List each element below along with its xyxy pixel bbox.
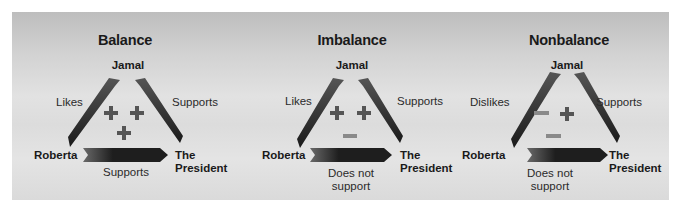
node-roberta: Roberta [34, 149, 77, 161]
node-president-line1: The [175, 149, 195, 161]
node-jamal: Jamal [551, 59, 584, 71]
plus-icon [117, 126, 131, 140]
bottom-arrow-icon [310, 148, 392, 162]
relation-bottom: Does not support [527, 167, 573, 193]
relation-left: Dislikes [470, 96, 510, 108]
nonbalance-diagram: Nonbalance Jamal Roberta The President D… [440, 12, 668, 200]
relation-bottom-line1: Supports [103, 166, 149, 179]
relation-bottom-line2: support [328, 180, 374, 193]
node-roberta: Roberta [462, 149, 505, 161]
relation-bottom: Supports [103, 166, 149, 179]
relation-right: Supports [397, 95, 443, 107]
node-jamal: Jamal [112, 59, 145, 71]
bottom-arrow-icon [527, 148, 608, 162]
node-president-line2: President [609, 162, 661, 174]
diagram-title: Imbalance [317, 32, 386, 48]
minus-icon [534, 111, 549, 116]
relation-right: Supports [596, 96, 642, 108]
node-roberta: Roberta [262, 149, 305, 161]
bottom-arrow-icon [83, 148, 168, 162]
node-president-line1: The [609, 149, 629, 161]
diagram-title: Balance [98, 32, 152, 48]
relation-right: Supports [172, 96, 218, 108]
node-president-line1: The [400, 149, 420, 161]
relation-bottom-line2: support [527, 180, 573, 193]
plus-icon [357, 106, 371, 120]
relation-left: Likes [56, 96, 83, 108]
relation-bottom-line1: Does not [328, 167, 374, 180]
relation-bottom: Does not support [328, 167, 374, 193]
node-jamal: Jamal [336, 59, 369, 71]
relation-left: Likes [285, 95, 312, 107]
plus-icon [560, 107, 574, 121]
plus-icon [130, 106, 144, 120]
diagram-title: Nonbalance [529, 32, 609, 48]
imbalance-diagram: Imbalance Jamal Roberta The President Li… [230, 12, 458, 200]
node-president-line2: President [175, 162, 227, 174]
plus-icon [104, 106, 118, 120]
minus-icon [546, 134, 561, 139]
balance-diagram: Balance Jamal Roberta The President Like… [12, 12, 240, 200]
diagram-panel: Balance Jamal Roberta The President Like… [12, 12, 669, 200]
plus-icon [330, 106, 344, 120]
minus-icon [343, 134, 357, 139]
relation-bottom-line1: Does not [527, 167, 573, 180]
